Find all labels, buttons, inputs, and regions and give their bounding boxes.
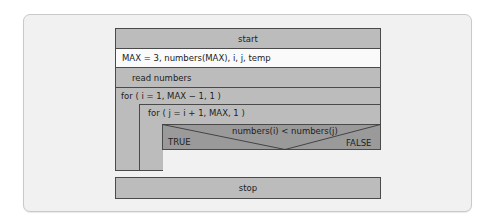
stop-label: stop (239, 183, 257, 193)
stop-block: stop (115, 177, 381, 199)
decision-true-label: TRUE (168, 137, 191, 147)
decision-false-label: FALSE (346, 138, 371, 148)
decision-condition: numbers(i) < numbers(j) (232, 126, 338, 136)
